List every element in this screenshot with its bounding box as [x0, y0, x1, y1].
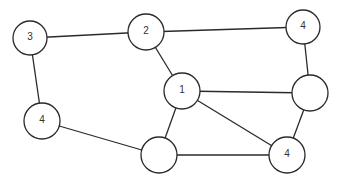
edge-n1-nright	[182, 91, 310, 93]
node-nbottom	[141, 137, 177, 173]
node-label: 4	[300, 20, 306, 31]
graph-diagram: 324414	[0, 0, 343, 179]
nodes: 324414	[13, 10, 328, 173]
node-label: 1	[179, 84, 185, 95]
edge-n2-n4top	[146, 27, 303, 32]
node-label: 2	[143, 25, 149, 36]
node-circle	[141, 137, 177, 173]
node-label: 4	[284, 148, 290, 159]
node-n2: 2	[128, 14, 164, 50]
node-label: 4	[39, 114, 45, 125]
node-label: 3	[27, 31, 33, 42]
node-n4left: 4	[24, 103, 60, 139]
node-nright	[292, 75, 328, 111]
node-n1: 1	[164, 73, 200, 109]
node-circle	[292, 75, 328, 111]
node-n4top: 4	[286, 10, 320, 44]
node-n4bottom: 4	[269, 137, 305, 173]
node-n3: 3	[13, 21, 47, 55]
